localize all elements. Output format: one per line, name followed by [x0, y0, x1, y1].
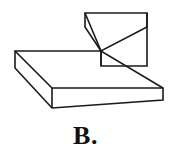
slab-front-face	[52, 88, 163, 108]
figure-caption: B.	[0, 121, 171, 151]
figure-screenshot: B.	[0, 0, 171, 157]
